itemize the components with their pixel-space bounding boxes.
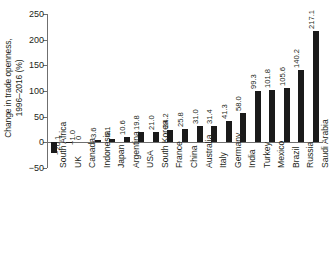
bar-value-text: 217.1 bbox=[308, 10, 316, 29]
x-tick-label: Indonesia bbox=[102, 131, 112, 168]
bar bbox=[313, 31, 319, 142]
bar bbox=[298, 70, 304, 142]
bar-value-text: 3.6 bbox=[90, 128, 98, 139]
bar bbox=[197, 126, 203, 142]
bar-value-text: 0 bbox=[75, 136, 83, 140]
y-tick-label: −50 bbox=[29, 163, 44, 173]
x-tick-label: USA bbox=[145, 150, 155, 168]
x-tick-label-slot: Russia bbox=[294, 168, 309, 262]
bar bbox=[284, 88, 290, 142]
y-tick-label: 150 bbox=[29, 60, 44, 70]
x-tick-label-slot: Italy bbox=[207, 168, 222, 262]
x-tick-label-slot: China bbox=[178, 168, 193, 262]
x-tick-label: Saudi Arabia bbox=[320, 119, 330, 168]
bar bbox=[153, 132, 159, 143]
x-tick-label: Brazil bbox=[291, 147, 301, 169]
x-tick-label: France bbox=[174, 141, 184, 168]
x-tick-label: Russia bbox=[305, 142, 315, 168]
y-axis-title-line2: 1996–2016 (%) bbox=[13, 38, 24, 138]
x-tick-label-slot: Saudi Arabia bbox=[308, 168, 323, 262]
y-axis-title: Change in trade openness, 1996–2016 (%) bbox=[0, 0, 26, 175]
y-axis-title-line1: Change in trade openness, bbox=[3, 38, 14, 138]
bar-value-text: 19.8 bbox=[133, 115, 141, 130]
x-tick-label-slot: South Africa bbox=[47, 168, 62, 262]
x-axis-tick-labels: South AfricaUKCanadaIndonesiaJapanArgent… bbox=[47, 168, 323, 262]
x-tick-label: South Korea bbox=[160, 120, 170, 168]
bar-value-text: 31.4 bbox=[206, 109, 214, 124]
y-tick-label: 100 bbox=[29, 86, 44, 96]
x-tick-label-slot: UK bbox=[62, 168, 77, 262]
bar-value-text: 21.0 bbox=[148, 115, 156, 130]
y-tick-label: 0 bbox=[39, 137, 44, 147]
bar bbox=[124, 137, 130, 142]
x-tick-label-slot: India bbox=[236, 168, 251, 262]
bar-value-text: 41.3 bbox=[221, 104, 229, 119]
x-tick-label-slot: France bbox=[163, 168, 178, 262]
bar-value-text: 58.0 bbox=[235, 96, 243, 111]
y-tick-label: 50 bbox=[34, 112, 44, 122]
x-tick-label: Argentina bbox=[131, 131, 141, 168]
x-tick-label-slot: South Korea bbox=[149, 168, 164, 262]
bar-value-text: 31.0 bbox=[192, 110, 200, 125]
x-tick-label-slot: Canada bbox=[76, 168, 91, 262]
x-tick-label: Italy bbox=[218, 152, 228, 168]
x-tick-label: Germany bbox=[233, 133, 243, 168]
bar-value-text: 10.6 bbox=[119, 120, 127, 135]
x-tick-label-slot: Indonesia bbox=[91, 168, 106, 262]
x-tick-label: Mexico bbox=[276, 141, 286, 168]
x-tick-label: India bbox=[247, 149, 257, 168]
x-tick-label-slot: Japan bbox=[105, 168, 120, 262]
x-tick-label-slot: Mexico bbox=[265, 168, 280, 262]
x-tick-label: Japan bbox=[116, 145, 126, 168]
x-tick-label: China bbox=[189, 146, 199, 168]
x-tick-label-slot: USA bbox=[134, 168, 149, 262]
x-tick-label-slot: Australia bbox=[192, 168, 207, 262]
x-tick-label-slot: Turkey bbox=[250, 168, 265, 262]
bar bbox=[255, 91, 261, 142]
x-tick-label-slot: Argentina bbox=[120, 168, 135, 262]
x-tick-label: Australia bbox=[204, 135, 214, 168]
x-tick-label: UK bbox=[73, 156, 83, 168]
bar bbox=[269, 90, 275, 142]
y-tick-label: 250 bbox=[29, 9, 44, 19]
x-tick-label-slot: Germany bbox=[221, 168, 236, 262]
bar-value-text: 105.6 bbox=[279, 67, 287, 86]
bar bbox=[226, 121, 232, 142]
x-tick-label: Turkey bbox=[262, 142, 272, 168]
x-tick-label: South Africa bbox=[58, 122, 68, 168]
bar-value-text: 140.2 bbox=[293, 49, 301, 68]
bar-value-text: 101.8 bbox=[264, 69, 272, 88]
bar-value-text: 25.8 bbox=[177, 112, 185, 127]
x-tick-label-slot: Brazil bbox=[279, 168, 294, 262]
x-tick-label: Canada bbox=[87, 138, 97, 168]
bar-value-text: 99.3 bbox=[250, 75, 258, 90]
y-tick-label: 200 bbox=[29, 35, 44, 45]
